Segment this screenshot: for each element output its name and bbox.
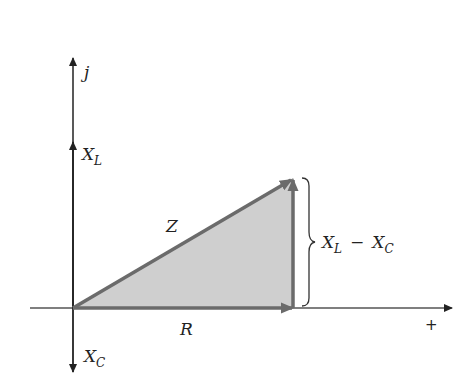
brace-icon [302,178,315,306]
xl-label: XL [80,144,102,168]
xc-label: XC [82,346,105,370]
j-axis-label: j [80,62,90,82]
z-label: Z [165,216,179,236]
impedance-diagram: j XL XC Z R XL−XC + [0,0,475,384]
positive-direction-label: + [425,316,438,334]
r-label: R [179,319,193,339]
reactance-difference-label: XL−XC [320,232,394,256]
